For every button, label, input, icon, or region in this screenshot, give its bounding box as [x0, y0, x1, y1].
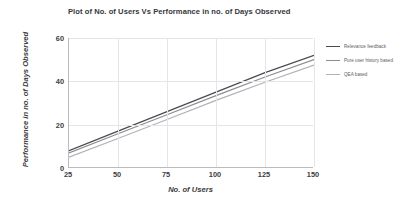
legend-item[interactable]: Relevance feedback: [326, 42, 406, 51]
x-axis-tick-label: 25: [51, 170, 85, 179]
legend-color-swatch: [326, 74, 340, 75]
series-line: [69, 65, 314, 157]
x-axis-tick-labels: 255075100125150: [68, 170, 313, 182]
legend-item[interactable]: Pure user history based: [326, 56, 406, 65]
x-axis-tick-label: 125: [247, 170, 281, 179]
gridline-vertical: [216, 38, 217, 167]
x-axis-tick-label: 75: [149, 170, 183, 179]
chart-legend: Relevance feedbackPure user history base…: [326, 42, 406, 84]
legend-item-label: QEA based: [344, 72, 367, 77]
gridline-vertical: [118, 38, 119, 167]
x-axis-tick-label: 100: [198, 170, 232, 179]
x-axis-tick-label: 150: [296, 170, 330, 179]
x-axis-tick-label: 50: [100, 170, 134, 179]
legend-color-swatch: [326, 60, 340, 61]
gridline-horizontal: [69, 81, 313, 82]
gridline-vertical: [265, 38, 266, 167]
gridline-vertical: [167, 38, 168, 167]
legend-color-swatch: [326, 46, 340, 47]
chart-title: Plot of No. of Users Vs Performance in n…: [68, 7, 298, 18]
chart-figure: Plot of No. of Users Vs Performance in n…: [0, 0, 408, 208]
plot-area: [68, 38, 313, 168]
y-axis-title: Performance in no. of Days Observed: [21, 30, 30, 170]
legend-item-label: Relevance feedback: [344, 44, 386, 49]
legend-item-label: Pure user history based: [344, 58, 393, 63]
y-axis-tick-label: 20: [38, 121, 64, 130]
gridline-vertical: [314, 38, 315, 167]
series-lines: [69, 38, 314, 168]
gridline-horizontal: [69, 38, 313, 39]
x-axis-title: No. of Users: [68, 185, 313, 194]
gridline-horizontal: [69, 125, 313, 126]
legend-item[interactable]: QEA based: [326, 70, 406, 79]
y-axis-tick-label: 40: [38, 77, 64, 86]
y-axis-tick-label: 60: [38, 34, 64, 43]
y-axis-tick-labels: 6040200: [36, 38, 64, 168]
series-line: [69, 60, 314, 153]
series-line: [69, 55, 314, 150]
